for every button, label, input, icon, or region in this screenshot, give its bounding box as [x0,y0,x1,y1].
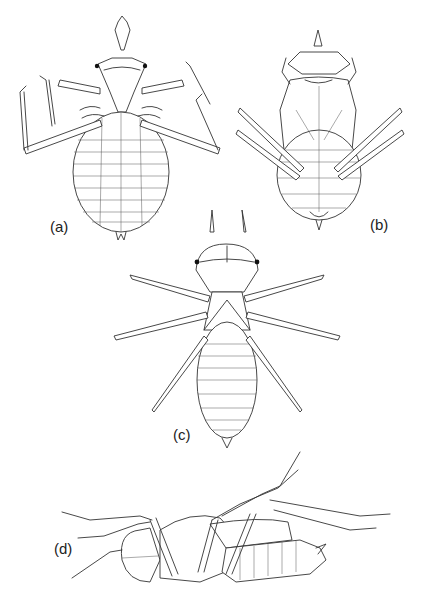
panel-label-d: (d) [54,540,72,557]
panel-label-c: (c) [173,426,191,443]
panel-label-a: (a) [50,218,68,235]
specimen-a-drawing [20,16,220,240]
specimen-b-drawing [236,30,404,230]
insect-illustration-figure: (a) (b) [0,0,422,595]
specimen-c-drawing [114,210,340,448]
panel-label-b: (b) [370,216,388,233]
specimen-d-drawing [62,452,390,582]
